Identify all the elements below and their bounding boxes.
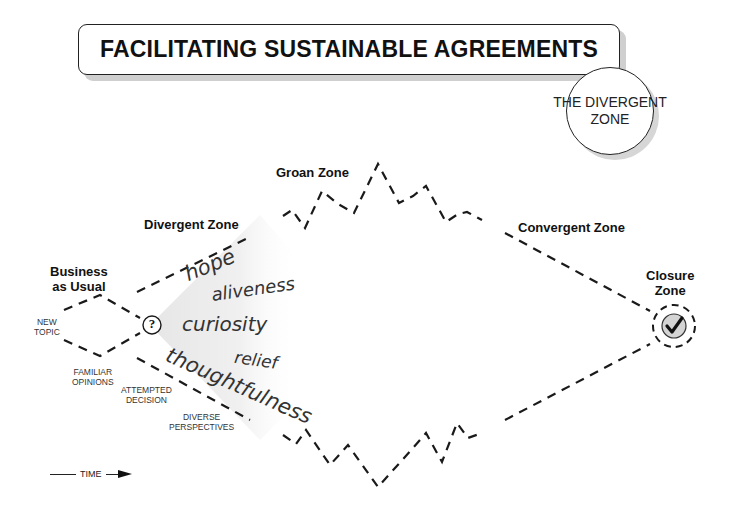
diverse-perspectives-label: DIVERSE PERSPECTIVES xyxy=(169,412,234,432)
groan-zone-label: Groan Zone xyxy=(276,165,349,180)
convergent-zone-label: Convergent Zone xyxy=(518,220,625,235)
attempted-decision-label: ATTEMPTED DECISION xyxy=(121,385,172,405)
convergent-upper-line xyxy=(505,233,650,311)
badge-line-1: THE DIVERGENT xyxy=(553,94,667,111)
closure-zone-label: Closure Zone xyxy=(646,268,694,298)
business-as-usual-label: Business as Usual xyxy=(50,264,108,294)
convergent-lower-line xyxy=(505,344,650,420)
question-mark-icon: ? xyxy=(146,316,158,332)
time-arrow: TIME xyxy=(50,469,132,479)
page-title: FACILITATING SUSTAINABLE AGREEMENTS xyxy=(100,36,598,63)
groan-zone-lower-zigzag xyxy=(283,423,482,487)
arrow-right-icon xyxy=(118,470,132,478)
time-label: TIME xyxy=(80,469,102,479)
title-banner: FACILITATING SUSTAINABLE AGREEMENTS xyxy=(78,24,620,75)
time-line-left xyxy=(50,474,76,475)
feeling-curiosity: curiosity xyxy=(182,312,267,336)
familiar-opinions-label: FAMILIAR OPINIONS xyxy=(72,367,114,387)
badge-line-2: ZONE xyxy=(591,111,630,128)
new-topic-label: NEW TOPIC xyxy=(34,317,60,337)
divergent-zone-label: Divergent Zone xyxy=(144,217,239,232)
time-line-right xyxy=(106,474,118,475)
business-as-usual-upper-line xyxy=(64,295,140,318)
divergent-zone-badge: THE DIVERGENT ZONE xyxy=(566,67,654,155)
business-as-usual-lower-line xyxy=(64,333,140,356)
